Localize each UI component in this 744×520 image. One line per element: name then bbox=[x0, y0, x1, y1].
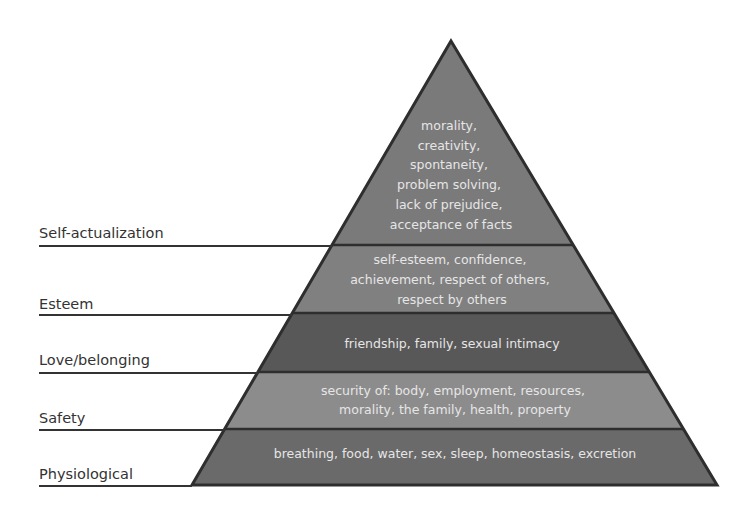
label-esteem: Esteem bbox=[39, 297, 93, 312]
label-safety: Safety bbox=[39, 411, 85, 426]
label-physiological: Physiological bbox=[39, 467, 133, 482]
label-love-belonging: Love/belonging bbox=[39, 353, 150, 368]
tier-text-physiological: breathing, food, water, sex, sleep, home… bbox=[274, 446, 637, 461]
maslow-pyramid-diagram: morality, creativity, spontaneity, probl… bbox=[0, 0, 744, 520]
tier-safety bbox=[225, 372, 683, 429]
label-self-actualization: Self-actualization bbox=[39, 226, 164, 241]
tier-text-love-belonging: friendship, family, sexual intimacy bbox=[344, 336, 560, 351]
